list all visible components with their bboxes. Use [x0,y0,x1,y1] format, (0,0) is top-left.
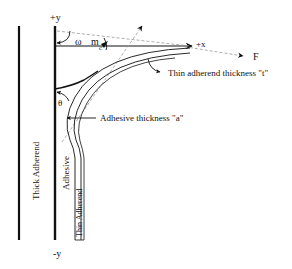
adhesive-inner-line [74,53,190,240]
plus-y-label: +y [50,12,61,23]
plus-x-label: +x [196,39,206,49]
thick-adherend-label: Thick Adherend [31,141,41,200]
adhesive-thickness-label: Adhesive thickness "a" [100,113,184,123]
force-direction-dashed [180,46,243,56]
thin-adherend-thickness-label: Thin adherend thickness "t" [168,68,268,78]
adhesive-fillet [55,71,98,89]
moment-subscript: c [99,44,102,52]
thin-adherend-label: Thin Adherend [75,189,84,237]
force-label: F [253,51,259,62]
peel-test-diagram: +y -y +x F ω m c θ Thin adherend thickne… [0,0,292,269]
omega-symbol: ω [75,36,82,47]
moment-symbol: m [91,36,99,47]
minus-y-label: -y [53,248,61,259]
theta-symbol: θ [58,98,62,108]
omega-arc-icon [57,31,70,43]
adhesive-label: Adhesive [61,156,71,190]
